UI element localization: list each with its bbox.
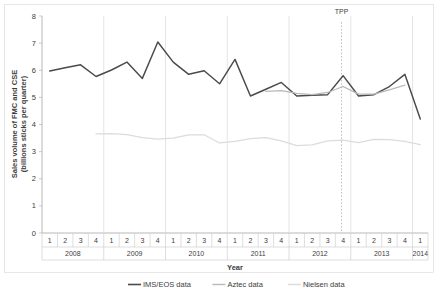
quarter-label: 1 [357,237,361,244]
year-label: 2012 [312,250,328,257]
y-tick-label: 5 [32,93,36,102]
quarter-label: 2 [63,237,67,244]
chart-container: Sales volume of FMC and CSE (billions st… [0,0,438,304]
y-axis-title-line1: Sales volume of FMC and CSE [10,70,19,178]
year-label: 2010 [189,250,205,257]
quarter-label: 4 [403,237,407,244]
year-label: 2009 [127,250,143,257]
quarter-label: 2 [125,237,129,244]
x-axis-labels: 1234123412341234123412341200820092010201… [42,233,428,260]
series-line-nielsen [96,134,420,146]
quarter-label: 3 [79,237,83,244]
year-label: 2013 [374,250,390,257]
y-tick-label: 4 [32,120,36,129]
quarter-label: 1 [171,237,175,244]
y-tick-label: 1 [32,201,36,210]
tpp-label: TPP [335,8,349,15]
year-label: 2008 [65,250,81,257]
y-axis-title: Sales volume of FMC and CSE (billions st… [10,70,28,178]
y-tick-label: 2 [32,174,36,183]
chart-legend: IMS/EOS dataAztec dataNielsen data [128,280,345,289]
quarter-label: 2 [248,237,252,244]
year-label: 2014 [412,250,428,257]
quarter-label: 4 [279,237,283,244]
y-axis-title-line2: (billions sticks per quarter) [19,75,28,172]
year-label: 2011 [251,250,266,257]
quarter-label: 4 [156,237,160,244]
quarter-label: 4 [341,237,345,244]
legend-label-ims-eos: IMS/EOS data [143,280,192,289]
y-tick-label: 3 [32,147,36,156]
quarter-label: 3 [202,237,206,244]
chart-frame [5,5,434,273]
quarter-label: 2 [372,237,376,244]
y-tick-label: 7 [32,39,36,48]
x-axis-title: Year [227,263,243,272]
quarter-label: 1 [233,237,237,244]
quarter-label: 3 [140,237,144,244]
quarter-label: 1 [48,237,52,244]
y-tick-label: 8 [32,12,36,21]
quarter-label: 1 [295,237,299,244]
quarter-label: 4 [94,237,98,244]
quarter-label: 2 [187,237,191,244]
tpp-annotation: TPP [335,8,349,233]
quarter-label: 3 [264,237,268,244]
quarter-label: 3 [387,237,391,244]
quarter-label: 3 [326,237,330,244]
series-lines [50,42,421,146]
y-tick-label: 0 [32,229,36,238]
line-chart-svg: Sales volume of FMC and CSE (billions st… [0,0,438,304]
y-axis: 012345678 [32,12,42,238]
quarter-label: 4 [218,237,222,244]
y-tick-label: 6 [32,66,36,75]
legend-label-nielsen: Nielsen data [303,280,346,289]
legend-label-aztec: Aztec data [227,280,263,289]
quarter-label: 1 [418,237,422,244]
quarter-label: 1 [110,237,114,244]
quarter-label: 2 [310,237,314,244]
year-separators [104,16,413,233]
series-line-ims-eos [50,42,421,119]
